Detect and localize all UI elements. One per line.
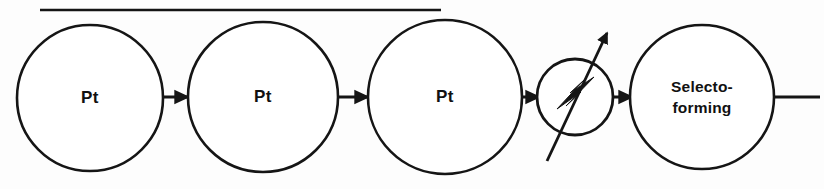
reactor-1-label: Pt [81,88,99,107]
selectoforming-circle [630,25,774,169]
node-reactor-1: Pt [17,25,163,171]
reactor-3-label: Pt [436,87,454,106]
reactor-2-label: Pt [254,87,272,106]
selectoforming-label-line2: forming [672,99,731,116]
node-reactor-2: Pt [188,22,338,172]
node-adjustable-unit [537,33,613,161]
process-flow-diagram: Pt Pt Pt Selecto- forming [0,0,824,189]
selectoforming-label-line1: Selecto- [671,78,733,95]
node-selectoforming-reactor: Selecto- forming [630,25,774,169]
flow-diagram-canvas: Pt Pt Pt Selecto- forming [0,0,824,189]
node-reactor-3: Pt [368,20,522,174]
